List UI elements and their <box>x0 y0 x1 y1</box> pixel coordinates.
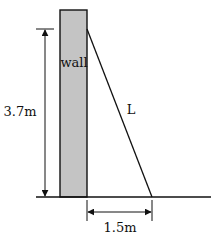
ladder-line <box>87 29 152 197</box>
ladder-wall-diagram: wall 3.7m L 1.5m <box>0 0 222 239</box>
ladder-label: L <box>127 102 136 117</box>
wall-label: wall <box>60 55 87 70</box>
height-label: 3.7m <box>3 104 36 119</box>
base-distance-label: 1.5m <box>103 220 136 235</box>
wall <box>60 10 87 197</box>
